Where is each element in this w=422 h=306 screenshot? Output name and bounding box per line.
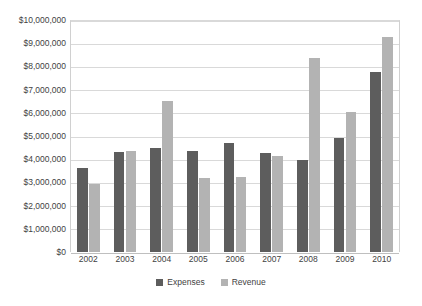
legend-swatch-icon [221, 279, 228, 286]
y-tick-label: $2,000,000 [0, 201, 66, 210]
legend-entry-revenue[interactable]: Revenue [221, 278, 266, 287]
bar-chart: $0$1,000,000$2,000,000$3,000,000$4,000,0… [0, 0, 422, 306]
bar-revenue-2008 [309, 58, 320, 252]
chart-legend: ExpensesRevenue [0, 278, 422, 287]
bar-revenue-2004 [162, 101, 173, 252]
x-tick-label: 2008 [299, 255, 318, 264]
x-tick-label: 2002 [79, 255, 98, 264]
y-tick-label: $5,000,000 [0, 132, 66, 141]
bar-expenses-2004 [150, 148, 161, 252]
y-tick-label: $1,000,000 [0, 225, 66, 234]
x-tick-label: 2010 [372, 255, 391, 264]
x-tick-label: 2009 [336, 255, 355, 264]
y-axis: $0$1,000,000$2,000,000$3,000,000$4,000,0… [0, 0, 66, 306]
y-tick-label: $7,000,000 [0, 85, 66, 94]
bar-group [143, 20, 180, 252]
legend-label: Revenue [232, 278, 266, 287]
x-tick-label: 2007 [262, 255, 281, 264]
bar-expenses-2010 [370, 72, 381, 252]
legend-swatch-icon [156, 279, 163, 286]
bar-group [217, 20, 254, 252]
bars-layer [70, 20, 400, 252]
y-tick-label: $10,000,000 [0, 16, 66, 25]
bar-revenue-2002 [89, 184, 100, 252]
bar-revenue-2007 [272, 156, 283, 252]
bar-expenses-2002 [77, 168, 88, 252]
bar-group [107, 20, 144, 252]
y-tick-label: $6,000,000 [0, 109, 66, 118]
bar-group [180, 20, 217, 252]
bar-expenses-2007 [260, 153, 271, 252]
bar-expenses-2008 [297, 160, 308, 252]
legend-entry-expenses[interactable]: Expenses [156, 278, 204, 287]
y-tick-label: $8,000,000 [0, 62, 66, 71]
y-tick-label: $9,000,000 [0, 39, 66, 48]
y-tick-label: $3,000,000 [0, 178, 66, 187]
bar-revenue-2006 [236, 177, 247, 252]
bar-group [327, 20, 364, 252]
y-tick-label: $4,000,000 [0, 155, 66, 164]
bar-group [253, 20, 290, 252]
bar-group [70, 20, 107, 252]
bar-revenue-2005 [199, 178, 210, 252]
bar-group [363, 20, 400, 252]
bar-revenue-2009 [346, 112, 357, 252]
bar-expenses-2005 [187, 151, 198, 252]
x-tick-label: 2003 [116, 255, 135, 264]
bar-expenses-2003 [114, 152, 125, 252]
x-tick-label: 2005 [189, 255, 208, 264]
bar-revenue-2010 [382, 37, 393, 252]
y-tick-label: $0 [0, 248, 66, 257]
bar-expenses-2009 [334, 138, 345, 252]
bar-group [290, 20, 327, 252]
x-axis: 200220032004200520062007200820092010 [70, 255, 400, 271]
bar-revenue-2003 [126, 151, 137, 252]
x-tick-label: 2006 [226, 255, 245, 264]
legend-label: Expenses [167, 278, 204, 287]
bar-expenses-2006 [224, 143, 235, 252]
x-tick-label: 2004 [152, 255, 171, 264]
